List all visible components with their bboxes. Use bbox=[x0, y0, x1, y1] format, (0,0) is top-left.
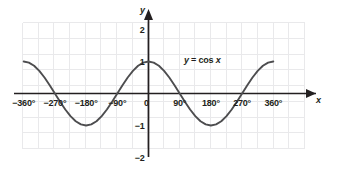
x-tick-label: −180° bbox=[75, 99, 98, 108]
x-tick-label: 180° bbox=[202, 99, 220, 108]
y-tick-label: 1 bbox=[140, 57, 145, 66]
equation-operator: = cos bbox=[189, 55, 216, 65]
x-tick-label: −360° bbox=[12, 99, 35, 108]
y-axis-arrowhead bbox=[144, 9, 153, 20]
x-axis-arrowhead bbox=[306, 89, 316, 98]
y-tick-label: −2 bbox=[135, 153, 145, 162]
curve-equation-label: y = cos x bbox=[184, 56, 221, 65]
x-tick-label: 360° bbox=[264, 99, 282, 108]
x-tick-label: 90° bbox=[173, 99, 186, 108]
y-axis-label: y bbox=[140, 6, 145, 15]
cosine-graph-figure: −360°−270°−180°−90°090°180°270°360° 21−1… bbox=[0, 0, 337, 170]
graph-canvas bbox=[0, 0, 337, 170]
grid-lines bbox=[23, 23, 305, 149]
axes bbox=[14, 9, 316, 157]
y-tick-label: −1 bbox=[135, 121, 145, 130]
equation-variable: x bbox=[216, 55, 221, 65]
x-tick-label: −90° bbox=[108, 99, 126, 108]
y-tick-label: 2 bbox=[140, 25, 145, 34]
x-tick-label: 270° bbox=[233, 99, 251, 108]
x-axis-label: x bbox=[316, 96, 321, 105]
x-tick-label: 0 bbox=[144, 99, 149, 108]
x-tick-label: −270° bbox=[43, 99, 66, 108]
